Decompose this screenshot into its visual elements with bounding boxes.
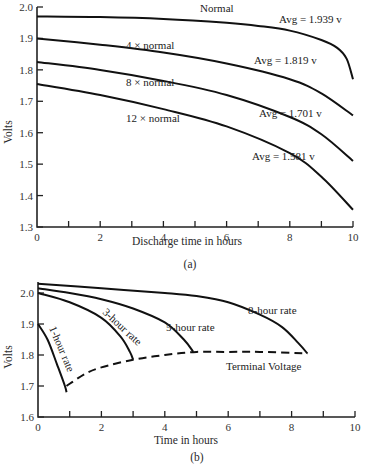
y-tick-label: 2.0 (19, 1, 33, 13)
avg-label-normal: Avg = 1.939 v (279, 13, 342, 25)
y-tick-label: 1.3 (19, 221, 33, 233)
x-tick-label: 2 (99, 421, 105, 433)
label-8-hour-rate: 8-hour rate (248, 304, 297, 316)
y-tick-label: 1.7 (19, 95, 33, 107)
x-tick-label: 10 (350, 421, 362, 433)
y-tick-label: 1.9 (19, 32, 33, 44)
avg-label-4x: Avg = 1.819 v (254, 54, 317, 66)
y-tick-label: 1.6 (19, 127, 33, 139)
x-tick-label: 0 (35, 421, 41, 433)
y-tick-label: 1.5 (19, 158, 33, 170)
chart-b: 1.61.71.81.92.00246810 1-hour rate 3-hou… (2, 282, 361, 464)
chart-a-axes: 1.31.41.51.61.71.81.92.00246810 (19, 1, 359, 243)
label-4x: 4 × normal (126, 39, 174, 51)
x-tick-label: 6 (225, 421, 231, 433)
chart-a: 1.31.41.51.61.71.81.92.00246810 Normal 4… (2, 1, 359, 271)
chart-a-y-title: Volts (2, 120, 14, 144)
figure: 1.31.41.51.61.71.81.92.00246810 Normal 4… (0, 0, 372, 472)
label-terminal-voltage: Terminal Voltage (226, 360, 302, 372)
y-tick-label: 1.6 (20, 411, 34, 423)
chart-b-x-title: Time in hours (154, 434, 219, 446)
avg-label-8x: Avg = 1.701 v (259, 107, 322, 119)
chart-a-caption: (a) (184, 258, 197, 271)
chart-b-curves (38, 284, 307, 393)
x-tick-label: 8 (289, 421, 295, 433)
avg-label-12x: Avg = 1.581 v (252, 150, 315, 162)
axis-lines (38, 282, 355, 417)
chart-b-y-title: Volts (2, 345, 14, 369)
y-tick-label: 1.8 (20, 349, 34, 361)
label-normal: Normal (200, 2, 234, 14)
label-12x: 12 × normal (126, 112, 180, 124)
chart-a-x-title: Discharge time in hours (132, 235, 242, 248)
y-tick-label: 2.0 (20, 287, 34, 299)
x-tick-label: 10 (348, 231, 360, 243)
curve-normal (37, 16, 353, 79)
x-tick-label: 0 (34, 231, 40, 243)
curve-12-normal (37, 84, 353, 210)
curve-4-normal (37, 38, 353, 115)
y-tick-label: 1.8 (19, 64, 33, 76)
y-tick-label: 1.4 (19, 190, 33, 202)
y-tick-label: 1.7 (20, 380, 34, 392)
x-tick-label: 4 (162, 421, 168, 433)
x-tick-label: 8 (287, 231, 293, 243)
label-3-hour-rate: 3-hour rate (101, 306, 145, 348)
label-5-hour-rate: 5-hour rate (166, 321, 215, 333)
y-tick-label: 1.9 (20, 318, 34, 330)
label-8x: 8 × normal (126, 76, 174, 88)
chart-b-caption: (b) (190, 451, 204, 464)
x-tick-label: 2 (97, 231, 103, 243)
